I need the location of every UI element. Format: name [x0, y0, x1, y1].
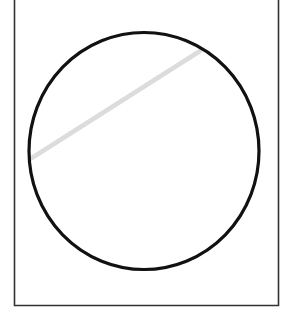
circle-outline: [29, 33, 259, 270]
chord-line: [31, 51, 200, 159]
frame-border: [15, 0, 279, 306]
diagram-canvas: [0, 0, 287, 322]
